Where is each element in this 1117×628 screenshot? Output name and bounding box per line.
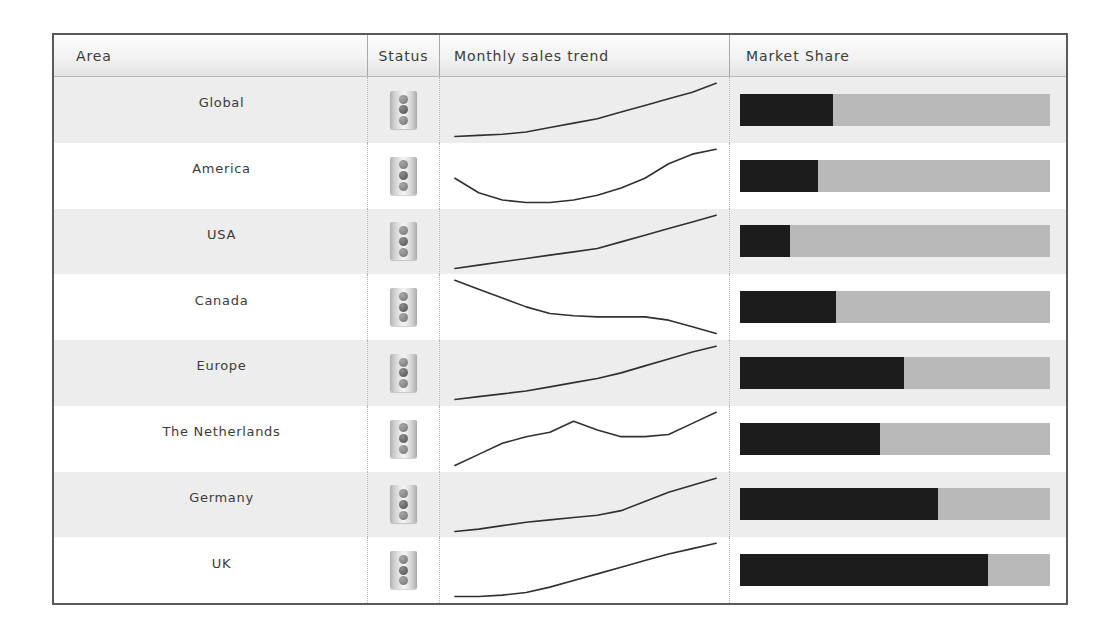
sparkline-path [455, 215, 716, 268]
column-header-market-share[interactable]: Market Share [729, 35, 1066, 76]
cell-area: Global [54, 77, 367, 143]
traffic-light-lamp-2 [399, 303, 408, 312]
screenshot-root: Area Status Monthly sales trend Market S… [0, 0, 1117, 628]
sparkline-chart [450, 406, 721, 472]
cell-status [367, 537, 439, 603]
table-row[interactable]: Canada [54, 274, 1066, 340]
area-label: Europe [197, 358, 247, 373]
table-row[interactable]: The Netherlands [54, 406, 1066, 472]
traffic-light-icon[interactable] [390, 551, 417, 589]
traffic-light-lamp-3 [399, 116, 408, 125]
sparkline-path [455, 149, 716, 202]
cell-status [367, 143, 439, 209]
market-share-bar [740, 423, 1050, 455]
traffic-light-lamp-1 [399, 423, 408, 432]
cell-status [367, 340, 439, 406]
traffic-light-lamp-1 [399, 358, 408, 367]
traffic-light-lamp-1 [399, 555, 408, 564]
sparkline-path [455, 281, 716, 334]
traffic-light-icon[interactable] [390, 354, 417, 392]
traffic-light-icon[interactable] [390, 91, 417, 129]
cell-market-share [729, 472, 1066, 538]
area-label: The Netherlands [162, 424, 280, 439]
traffic-light-icon[interactable] [390, 222, 417, 260]
traffic-light-lamp-1 [399, 95, 408, 104]
table-row[interactable]: America [54, 143, 1066, 209]
market-share-bar-fill [740, 423, 880, 455]
cell-area: The Netherlands [54, 406, 367, 472]
cell-monthly-sales-trend [439, 340, 729, 406]
sparkline-path [455, 544, 716, 597]
cell-market-share [729, 406, 1066, 472]
sparkline-path [455, 478, 716, 531]
traffic-light-lamp-2 [399, 171, 408, 180]
data-table: Area Status Monthly sales trend Market S… [54, 35, 1066, 603]
cell-area: Europe [54, 340, 367, 406]
traffic-light-lamp-1 [399, 292, 408, 301]
cell-monthly-sales-trend [439, 77, 729, 143]
cell-status [367, 77, 439, 143]
traffic-light-lamp-1 [399, 160, 408, 169]
column-header-status-label: Status [378, 48, 428, 64]
traffic-light-lamp-2 [399, 434, 408, 443]
market-share-bar-fill [740, 94, 833, 126]
table-body: GlobalAmericaUSACanadaEuropeThe Netherla… [54, 77, 1066, 603]
cell-area: USA [54, 209, 367, 275]
sparkline-chart [450, 77, 721, 143]
cell-market-share [729, 143, 1066, 209]
column-header-area-label: Area [76, 48, 112, 64]
traffic-light-icon[interactable] [390, 420, 417, 458]
traffic-light-lamp-2 [399, 500, 408, 509]
cell-market-share [729, 274, 1066, 340]
market-share-bar [740, 94, 1050, 126]
market-share-bar-fill [740, 291, 836, 323]
column-header-monthly-sales-trend-label: Monthly sales trend [454, 48, 609, 64]
cell-monthly-sales-trend [439, 537, 729, 603]
traffic-light-lamp-3 [399, 379, 408, 388]
sparkline-path [455, 346, 716, 399]
table-header-row: Area Status Monthly sales trend Market S… [54, 35, 1066, 77]
traffic-light-lamp-3 [399, 445, 408, 454]
traffic-light-lamp-3 [399, 511, 408, 520]
traffic-light-lamp-3 [399, 313, 408, 322]
data-table-panel: Area Status Monthly sales trend Market S… [52, 33, 1068, 605]
cell-market-share [729, 537, 1066, 603]
column-header-area[interactable]: Area [54, 35, 367, 76]
column-header-status[interactable]: Status [367, 35, 439, 76]
traffic-light-icon[interactable] [390, 485, 417, 523]
market-share-bar-fill [740, 160, 818, 192]
market-share-bar [740, 488, 1050, 520]
market-share-bar [740, 357, 1050, 389]
area-label: Canada [195, 293, 249, 308]
sparkline-chart [450, 472, 721, 538]
traffic-light-lamp-3 [399, 248, 408, 257]
traffic-light-lamp-1 [399, 489, 408, 498]
cell-area: America [54, 143, 367, 209]
market-share-bar-fill [740, 488, 938, 520]
cell-status [367, 209, 439, 275]
sparkline-chart [450, 340, 721, 406]
traffic-light-icon[interactable] [390, 157, 417, 195]
area-label: America [192, 161, 251, 176]
column-header-monthly-sales-trend[interactable]: Monthly sales trend [439, 35, 729, 76]
market-share-bar [740, 225, 1050, 257]
area-label: UK [212, 556, 231, 571]
cell-market-share [729, 77, 1066, 143]
traffic-light-lamp-2 [399, 105, 408, 114]
cell-status [367, 472, 439, 538]
table-row[interactable]: Germany [54, 472, 1066, 538]
cell-status [367, 274, 439, 340]
column-header-market-share-label: Market Share [746, 48, 850, 64]
table-row[interactable]: Global [54, 77, 1066, 143]
cell-monthly-sales-trend [439, 274, 729, 340]
traffic-light-icon[interactable] [390, 288, 417, 326]
traffic-light-lamp-2 [399, 237, 408, 246]
traffic-light-lamp-2 [399, 566, 408, 575]
sparkline-chart [450, 143, 721, 209]
table-row[interactable]: USA [54, 209, 1066, 275]
cell-status [367, 406, 439, 472]
table-row[interactable]: Europe [54, 340, 1066, 406]
sparkline-path [455, 83, 716, 136]
table-row[interactable]: UK [54, 537, 1066, 603]
sparkline-chart [450, 274, 721, 340]
